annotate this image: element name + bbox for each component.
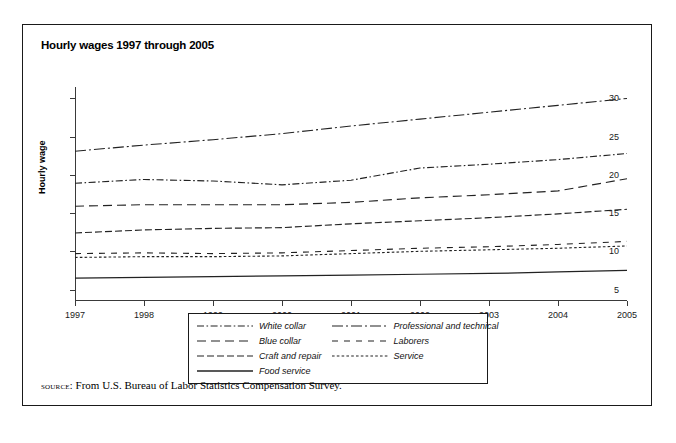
legend-spacer — [332, 364, 499, 378]
legend-swatch-icon — [332, 336, 388, 346]
x-tick-label: 1998 — [134, 310, 154, 320]
legend-swatch-icon — [332, 321, 388, 331]
legend-item-white-collar[interactable]: White collar — [197, 319, 322, 333]
legend-label: Blue collar — [259, 336, 301, 346]
legend-swatch-icon — [197, 336, 253, 346]
x-tick-mark — [558, 301, 559, 306]
legend-swatch-icon — [332, 351, 388, 361]
legend-item-blue-collar[interactable]: Blue collar — [197, 334, 322, 348]
plot-area: 51015202530 1997199819992000200120022003… — [75, 87, 627, 301]
series-line-craft-and-repair — [75, 209, 627, 233]
series-line-food-service — [75, 270, 627, 278]
x-tick-label: 1997 — [65, 310, 85, 320]
series-line-white-collar — [75, 153, 627, 184]
x-tick-mark — [627, 301, 628, 306]
y-axis-title: Hourly wage — [37, 140, 47, 194]
series-line-laborers — [75, 241, 627, 253]
legend-label: Food service — [259, 366, 311, 376]
legend-label: Laborers — [394, 336, 430, 346]
x-tick-mark — [351, 301, 352, 306]
x-tick-mark — [282, 301, 283, 306]
x-tick-label: 2005 — [617, 310, 637, 320]
legend-label: Craft and repair — [259, 351, 322, 361]
legend-label: Service — [394, 351, 424, 361]
plot-frame: 51015202530 1997199819992000200120022003… — [75, 87, 627, 301]
series-line-blue-collar — [75, 179, 627, 207]
legend-grid: White collarProfessional and technicalBl… — [197, 319, 479, 378]
source-label: source: — [41, 380, 73, 391]
legend-item-craft-and-repair[interactable]: Craft and repair — [197, 349, 322, 363]
legend-item-laborers[interactable]: Laborers — [332, 334, 499, 348]
legend-label: Professional and technical — [394, 321, 499, 331]
legend-item-service[interactable]: Service — [332, 349, 499, 363]
chart-legend: White collarProfessional and technicalBl… — [188, 313, 488, 384]
source-note: source: From U.S. Bureau of Labor Statis… — [41, 379, 342, 391]
x-tick-mark — [213, 301, 214, 306]
x-tick-mark — [144, 301, 145, 306]
legend-item-professional-and-technical[interactable]: Professional and technical — [332, 319, 499, 333]
legend-swatch-icon — [197, 351, 253, 361]
figure-panel: Hourly wages 1997 through 2005 Hourly wa… — [22, 24, 652, 406]
legend-swatch-icon — [197, 366, 253, 376]
x-tick-label: 2004 — [548, 310, 568, 320]
series-line-service — [75, 246, 627, 257]
x-tick-mark — [75, 301, 76, 306]
x-tick-mark — [489, 301, 490, 306]
series-lines — [75, 87, 627, 301]
x-tick-mark — [420, 301, 421, 306]
chart-title: Hourly wages 1997 through 2005 — [41, 39, 214, 51]
legend-swatch-icon — [197, 321, 253, 331]
source-text: From U.S. Bureau of Labor Statistics Com… — [76, 379, 342, 391]
legend-label: White collar — [259, 321, 306, 331]
series-line-professional-and-technical — [75, 98, 627, 151]
legend-item-food-service[interactable]: Food service — [197, 364, 322, 378]
